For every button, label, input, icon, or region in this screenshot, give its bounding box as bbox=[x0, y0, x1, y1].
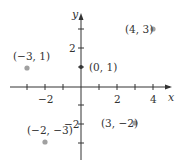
point-label-neg3-1: (−3, 1) bbox=[13, 50, 50, 62]
x-axis-label: x bbox=[168, 91, 175, 104]
x-tick-label-2: 2 bbox=[114, 93, 121, 105]
y-axis-arrow-icon bbox=[79, 13, 84, 20]
x-axis-arrow-icon bbox=[165, 85, 172, 90]
point-neg3-1 bbox=[24, 65, 29, 70]
x-tick-label-4: 4 bbox=[150, 93, 157, 105]
coordinate-plane: x y −2 2 4 2 −2 (4, 3) (−3, 1) (0, 1) (−… bbox=[0, 0, 183, 168]
x-tick-label-neg2: −2 bbox=[38, 93, 53, 105]
point-label-0-1: (0, 1) bbox=[89, 61, 117, 73]
y-axis-label: y bbox=[71, 8, 79, 21]
point-label-3-neg2: (3, −2) bbox=[101, 117, 138, 129]
y-tick-label-2: 2 bbox=[69, 42, 76, 54]
point-neg2-neg3 bbox=[42, 139, 47, 144]
point-label-neg2-neg3: (−2, −3) bbox=[27, 124, 73, 136]
point-label-4-3: (4, 3) bbox=[125, 23, 153, 35]
point-0-1 bbox=[79, 65, 83, 69]
